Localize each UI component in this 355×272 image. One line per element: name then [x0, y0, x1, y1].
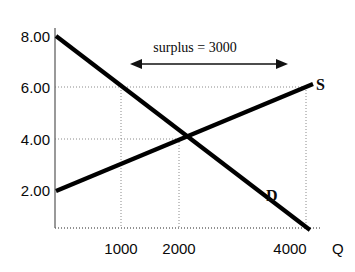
y-tick-label-2: 2.00 — [4, 183, 50, 198]
surplus-annotation-label: surplus = 3000 — [115, 41, 275, 55]
supply-curve-label: S — [316, 77, 325, 93]
x-tick-label-4000: 4000 — [262, 241, 318, 256]
y-tick-label-6: 6.00 — [4, 80, 50, 95]
y-tick-label-8: 8.00 — [4, 29, 50, 44]
x-tick-label-1000: 1000 — [93, 241, 149, 256]
x-axis-title: Q — [332, 241, 344, 256]
x-tick-label-2000: 2000 — [151, 241, 207, 256]
chart-screenshot: 8.00 6.00 4.00 2.00 1000 2000 4000 Q S D… — [0, 0, 355, 272]
y-tick-label-4: 4.00 — [4, 132, 50, 147]
supply-curve — [56, 84, 313, 191]
demand-curve-label: D — [266, 188, 278, 204]
surplus-arrow — [130, 59, 288, 69]
